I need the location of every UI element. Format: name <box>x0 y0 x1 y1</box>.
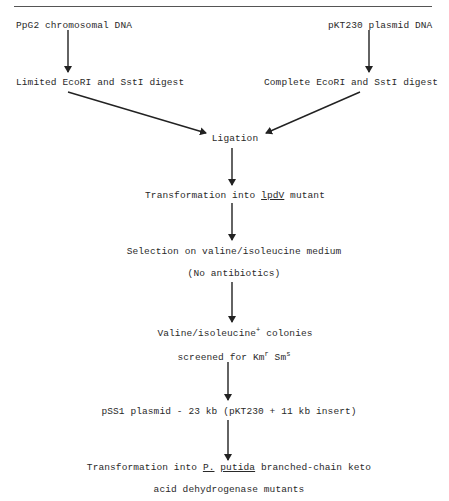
gene-lpdv: lpdV <box>261 190 284 201</box>
node-colonies: Valine/isoleucine+ colonies <box>157 326 312 339</box>
species-putida: putida <box>220 462 255 473</box>
node-complete-digest: Complete EcoRI and SstI digest <box>264 77 438 88</box>
node-no-antibiotics: (No antibiotics) <box>188 268 281 279</box>
node-pss1-plasmid: pSS1 plasmid - 23 kb (pKT230 + 11 kb ins… <box>101 406 356 417</box>
arrow-limited-to-ligation <box>68 92 206 133</box>
node-limited-digest: Limited EcoRI and SstI digest <box>16 77 184 88</box>
node-chromosomal-dna: PpG2 chromosomal DNA <box>16 20 132 31</box>
genus-p: P. <box>203 462 215 473</box>
node-plasmid-dna: pKT230 plasmid DNA <box>328 20 432 31</box>
node-final-transformation: Transformation into P. putida branched-c… <box>87 462 371 473</box>
node-transformation-lpdv: Transformation into lpdV mutant <box>145 190 325 201</box>
node-final-line2: acid dehydrogenase mutants <box>154 484 305 495</box>
node-screened: screened for Kmr Sms <box>177 350 290 363</box>
node-selection: Selection on valine/isoleucine medium <box>127 246 342 257</box>
arrow-complete-to-ligation <box>266 92 360 133</box>
node-ligation: Ligation <box>212 133 258 144</box>
